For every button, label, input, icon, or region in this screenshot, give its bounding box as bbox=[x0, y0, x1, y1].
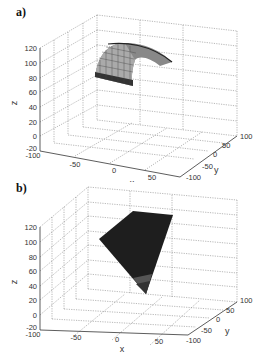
panel-b-x-ticks: -100 -50 0 50 bbox=[25, 330, 163, 346]
svg-text:-100: -100 bbox=[186, 336, 201, 345]
svg-text:40: 40 bbox=[29, 103, 37, 112]
svg-text:0: 0 bbox=[33, 311, 37, 320]
svg-text:-50: -50 bbox=[71, 333, 82, 342]
panel-a-axes bbox=[40, 48, 237, 177]
panel-b-y-label: y bbox=[225, 326, 230, 336]
svg-text:0: 0 bbox=[216, 315, 220, 324]
panel-b-plot: 120 100 80 60 40 20 0 -20 -100 -50 0 50 … bbox=[0, 182, 264, 364]
svg-text:50: 50 bbox=[155, 337, 163, 346]
svg-text:100: 100 bbox=[24, 59, 37, 68]
panel-a-plot: 120 100 80 60 40 20 0 -20 -100 -50 0 50 … bbox=[0, 0, 264, 182]
panel-a-y-label: y bbox=[214, 165, 219, 175]
panel-b-z-ticks: 120 100 80 60 40 20 0 -20 bbox=[24, 223, 37, 332]
svg-text:0: 0 bbox=[33, 132, 37, 141]
panel-a-y-ticks: -100 -50 0 50 100 bbox=[186, 132, 253, 182]
svg-text:20: 20 bbox=[29, 296, 37, 305]
svg-text:100: 100 bbox=[240, 132, 253, 141]
svg-text:50: 50 bbox=[222, 141, 230, 150]
svg-text:-100: -100 bbox=[25, 151, 40, 160]
panel-b-x-label: x bbox=[120, 344, 125, 354]
panel-b-surface bbox=[99, 211, 173, 294]
svg-text:80: 80 bbox=[29, 74, 37, 83]
panel-a-grid bbox=[40, 15, 237, 170]
svg-text:0: 0 bbox=[112, 166, 116, 175]
svg-text:100: 100 bbox=[24, 238, 37, 247]
svg-text:60: 60 bbox=[29, 88, 37, 97]
svg-text:0: 0 bbox=[213, 150, 217, 159]
svg-text:120: 120 bbox=[24, 44, 37, 53]
svg-text:40: 40 bbox=[29, 282, 37, 291]
panel-a: a) bbox=[0, 0, 264, 182]
panel-a-surface bbox=[95, 43, 172, 86]
svg-text:-50: -50 bbox=[201, 326, 212, 335]
svg-text:-50: -50 bbox=[202, 162, 213, 171]
svg-text:80: 80 bbox=[29, 253, 37, 262]
svg-text:60: 60 bbox=[29, 267, 37, 276]
svg-text:0: 0 bbox=[115, 335, 119, 344]
svg-text:50: 50 bbox=[148, 173, 156, 182]
svg-text:-100: -100 bbox=[186, 173, 201, 182]
svg-text:-100: -100 bbox=[25, 330, 40, 339]
panel-b: b) bbox=[0, 182, 264, 364]
panel-b-y-ticks: -100 -50 0 50 100 bbox=[186, 296, 253, 345]
panel-a-z-ticks: 120 100 80 60 40 20 0 -20 bbox=[24, 44, 37, 153]
svg-text:20: 20 bbox=[29, 118, 37, 127]
svg-text:120: 120 bbox=[24, 223, 37, 232]
panel-b-z-label: z bbox=[9, 279, 19, 284]
panel-a-z-label: z bbox=[9, 100, 19, 105]
svg-text:100: 100 bbox=[240, 296, 253, 305]
svg-text:-50: -50 bbox=[70, 160, 81, 169]
panel-a-x-ticks: -100 -50 0 50 bbox=[25, 151, 156, 182]
svg-text:50: 50 bbox=[226, 306, 234, 315]
